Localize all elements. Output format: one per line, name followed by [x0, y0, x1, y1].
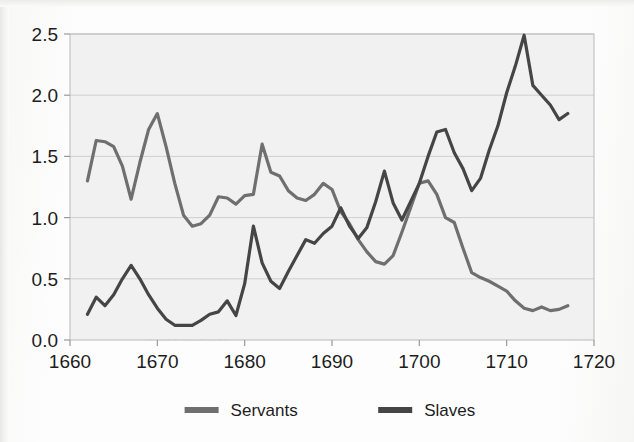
legend-label-servants: Servants [231, 401, 298, 420]
x-axis-tick-labels: 1660167016801690170017101720 [49, 351, 615, 372]
y-tick-label-0.0: 0.0 [32, 330, 58, 351]
y-tick-label-2.0: 2.0 [32, 85, 58, 106]
x-tick-label-1680: 1680 [224, 351, 266, 372]
x-tick-label-1690: 1690 [311, 351, 353, 372]
x-axis-tick-marks [70, 340, 594, 346]
figure-container: a time and was often accorded the ced th… [0, 0, 634, 442]
y-tick-label-2.5: 2.5 [32, 24, 58, 45]
x-tick-label-1710: 1710 [486, 351, 528, 372]
legend-label-slaves: Slaves [424, 401, 475, 420]
y-axis-tick-labels: 0.00.51.01.52.02.5 [32, 24, 58, 351]
x-tick-label-1660: 1660 [49, 351, 91, 372]
line-chart: 0.00.51.01.52.02.5 166016701680169017001… [0, 0, 634, 442]
y-tick-label-1.0: 1.0 [32, 208, 58, 229]
x-tick-label-1670: 1670 [136, 351, 178, 372]
x-tick-label-1720: 1720 [573, 351, 615, 372]
y-tick-label-1.5: 1.5 [32, 146, 58, 167]
y-axis-tick-marks [64, 34, 70, 340]
y-tick-label-0.5: 0.5 [32, 269, 58, 290]
chart-legend: ServantsSlaves [185, 401, 476, 420]
x-tick-label-1700: 1700 [398, 351, 440, 372]
